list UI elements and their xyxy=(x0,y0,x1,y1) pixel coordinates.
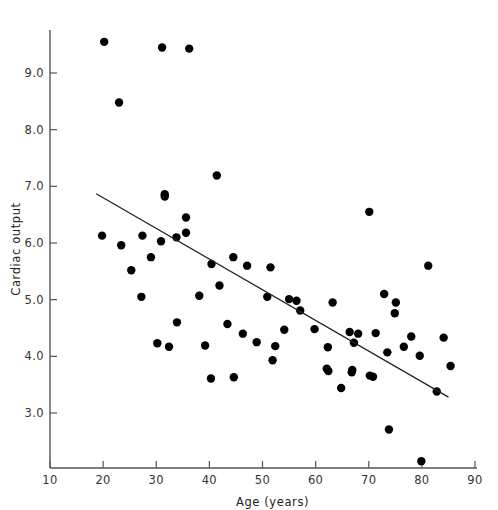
data-point xyxy=(416,352,424,360)
data-point xyxy=(165,343,173,351)
data-point xyxy=(266,263,274,271)
data-point xyxy=(98,231,106,239)
data-point xyxy=(268,356,276,364)
data-point xyxy=(115,98,123,106)
data-point xyxy=(310,325,318,333)
data-point xyxy=(400,343,408,351)
y-axis-ticks: 3.04.05.06.07.08.09.0 xyxy=(25,66,58,420)
y-tick-label: 7.0 xyxy=(25,179,45,193)
data-point xyxy=(407,332,415,340)
data-point xyxy=(328,298,336,306)
data-point xyxy=(195,292,203,300)
data-point xyxy=(391,309,399,317)
x-tick-label: 90 xyxy=(467,473,482,487)
data-point xyxy=(158,43,166,51)
data-point xyxy=(371,329,379,337)
data-point xyxy=(354,329,362,337)
data-point xyxy=(230,373,238,381)
data-point xyxy=(138,231,146,239)
x-tick-label: 20 xyxy=(95,473,110,487)
data-point xyxy=(365,208,373,216)
data-point xyxy=(207,374,215,382)
data-point xyxy=(185,44,193,52)
cardiac-output-vs-age-scatter: 3.04.05.06.07.08.09.0 102030405060708090… xyxy=(0,0,498,510)
x-tick-label: 70 xyxy=(361,473,376,487)
data-point xyxy=(348,368,356,376)
y-tick-label: 8.0 xyxy=(25,123,45,137)
x-tick-label: 40 xyxy=(202,473,217,487)
data-point xyxy=(127,266,135,274)
data-point xyxy=(280,326,288,334)
data-point xyxy=(252,338,260,346)
axes-group xyxy=(50,30,477,468)
data-point xyxy=(446,362,454,370)
data-point xyxy=(223,320,231,328)
data-point xyxy=(161,192,169,200)
data-point xyxy=(147,253,155,261)
data-point xyxy=(229,253,237,261)
data-point xyxy=(324,367,332,375)
data-point xyxy=(153,339,161,347)
data-point xyxy=(215,281,223,289)
x-tick-label: 30 xyxy=(149,473,164,487)
data-point xyxy=(392,298,400,306)
data-point xyxy=(324,343,332,351)
y-tick-label: 6.0 xyxy=(25,236,45,250)
x-axis-title: Age (years) xyxy=(236,495,309,509)
data-point xyxy=(424,261,432,269)
data-point xyxy=(137,293,145,301)
y-axis-title: Cardiac output xyxy=(9,202,23,295)
data-point xyxy=(369,373,377,381)
data-point xyxy=(239,329,247,337)
data-point xyxy=(417,457,425,465)
x-tick-label: 80 xyxy=(414,473,429,487)
x-tick-label: 10 xyxy=(42,473,57,487)
data-point xyxy=(173,318,181,326)
data-point xyxy=(292,297,300,305)
data-point xyxy=(207,260,215,268)
y-tick-label: 9.0 xyxy=(25,66,45,80)
y-tick-label: 4.0 xyxy=(25,349,45,363)
data-point xyxy=(182,213,190,221)
data-point xyxy=(345,328,353,336)
scatter-plot-figure: 3.04.05.06.07.08.09.0 102030405060708090… xyxy=(0,0,498,510)
data-point xyxy=(213,171,221,179)
data-point xyxy=(271,342,279,350)
x-axis-ticks: 102030405060708090 xyxy=(42,461,482,487)
data-point xyxy=(439,333,447,341)
regression-line xyxy=(96,194,448,397)
data-point xyxy=(337,384,345,392)
x-tick-label: 50 xyxy=(255,473,270,487)
data-point xyxy=(385,425,393,433)
y-tick-label: 3.0 xyxy=(25,406,45,420)
data-point xyxy=(383,348,391,356)
data-point xyxy=(380,290,388,298)
data-point xyxy=(243,261,251,269)
data-point xyxy=(182,229,190,237)
data-points-layer xyxy=(98,38,455,466)
x-tick-label: 60 xyxy=(308,473,323,487)
data-point xyxy=(100,38,108,46)
data-point xyxy=(285,295,293,303)
y-tick-label: 5.0 xyxy=(25,293,45,307)
data-point xyxy=(201,341,209,349)
data-point xyxy=(117,241,125,249)
data-point xyxy=(157,237,165,245)
